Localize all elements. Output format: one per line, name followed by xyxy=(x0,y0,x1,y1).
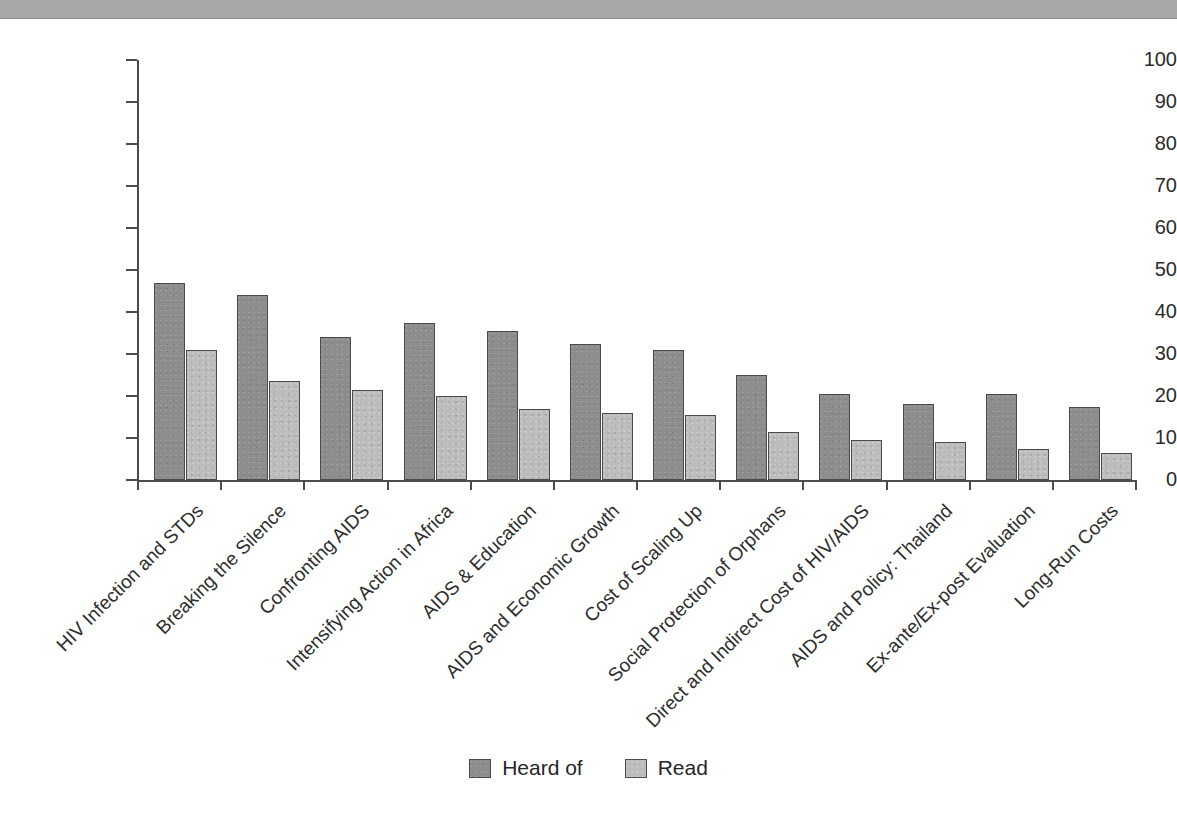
x-axis-tick xyxy=(886,480,888,490)
bar-group[interactable] xyxy=(553,60,636,480)
bar-read[interactable] xyxy=(1101,453,1132,480)
legend-item[interactable]: Read xyxy=(625,756,708,780)
x-axis-tick xyxy=(1052,480,1054,490)
x-axis-category-label: HIV Infection and STDs xyxy=(52,500,208,656)
bar-read[interactable] xyxy=(935,442,966,480)
bar-read[interactable] xyxy=(602,413,633,480)
x-axis-tick xyxy=(969,480,971,490)
bar-heard-of[interactable] xyxy=(570,344,601,481)
x-axis-tick xyxy=(303,480,305,490)
bar-group[interactable] xyxy=(636,60,719,480)
y-axis-tick xyxy=(126,143,137,145)
bar-chart-figure: 0102030405060708090100 HIV Infection and… xyxy=(0,18,1177,836)
bar-group[interactable] xyxy=(802,60,885,480)
light-gray-swatch xyxy=(625,759,647,778)
bar-heard-of[interactable] xyxy=(237,295,268,480)
bar-heard-of[interactable] xyxy=(487,331,518,480)
y-axis-tick xyxy=(126,437,137,439)
bar-group[interactable] xyxy=(886,60,969,480)
x-axis-tick xyxy=(387,480,389,490)
x-axis-category-label: Ex-ante/Ex-post Evaluation xyxy=(862,500,1040,678)
bar-read[interactable] xyxy=(1018,449,1049,481)
bar-heard-of[interactable] xyxy=(819,394,850,480)
y-axis-tick xyxy=(126,353,137,355)
bar-group[interactable] xyxy=(303,60,386,480)
bar-read[interactable] xyxy=(436,396,467,480)
bar-read[interactable] xyxy=(851,440,882,480)
bar-group[interactable] xyxy=(220,60,303,480)
bar-read[interactable] xyxy=(186,350,217,480)
x-axis-tick xyxy=(470,480,472,490)
x-axis-tick xyxy=(802,480,804,490)
bar-heard-of[interactable] xyxy=(736,375,767,480)
bar-heard-of[interactable] xyxy=(903,404,934,480)
dark-gray-swatch xyxy=(469,759,491,778)
bar-read[interactable] xyxy=(519,409,550,480)
chart-legend: Heard ofRead xyxy=(0,756,1177,780)
x-axis-category-label: Intensifying Action in Africa xyxy=(282,500,457,675)
bar-heard-of[interactable] xyxy=(986,394,1017,480)
top-decorative-band xyxy=(0,0,1177,19)
x-axis-category-label: AIDS and Policy: Thailand xyxy=(785,500,956,671)
bar-group[interactable] xyxy=(1052,60,1135,480)
bar-heard-of[interactable] xyxy=(154,283,185,480)
y-axis-tick xyxy=(126,101,137,103)
x-axis-tick xyxy=(1135,480,1137,490)
bar-heard-of[interactable] xyxy=(404,323,435,481)
bar-heard-of[interactable] xyxy=(653,350,684,480)
bar-group[interactable] xyxy=(969,60,1052,480)
bar-read[interactable] xyxy=(685,415,716,480)
bar-group[interactable] xyxy=(137,60,220,480)
bar-group[interactable] xyxy=(470,60,553,480)
x-axis-tick xyxy=(719,480,721,490)
legend-label: Heard of xyxy=(502,756,583,780)
bar-group[interactable] xyxy=(719,60,802,480)
y-axis-tick xyxy=(126,395,137,397)
bar-heard-of[interactable] xyxy=(1069,407,1100,481)
legend-item[interactable]: Heard of xyxy=(469,756,583,780)
x-axis-tick xyxy=(553,480,555,490)
y-axis-tick xyxy=(126,311,137,313)
y-axis-tick xyxy=(126,479,137,481)
x-axis-tick xyxy=(220,480,222,490)
bar-read[interactable] xyxy=(768,432,799,480)
x-axis-category-label: AIDS and Economic Growth xyxy=(441,500,624,683)
x-axis-category-label: Social Protection of Orphans xyxy=(604,500,791,687)
plot-area xyxy=(137,60,1135,480)
x-axis-tick xyxy=(636,480,638,490)
y-axis-tick xyxy=(126,269,137,271)
y-axis-tick xyxy=(126,185,137,187)
bar-heard-of[interactable] xyxy=(320,337,351,480)
x-axis-tick xyxy=(137,480,139,490)
legend-label: Read xyxy=(658,756,708,780)
bar-group[interactable] xyxy=(387,60,470,480)
bar-read[interactable] xyxy=(352,390,383,480)
y-axis-tick xyxy=(126,227,137,229)
y-axis-tick xyxy=(126,59,137,61)
bar-read[interactable] xyxy=(269,381,300,480)
